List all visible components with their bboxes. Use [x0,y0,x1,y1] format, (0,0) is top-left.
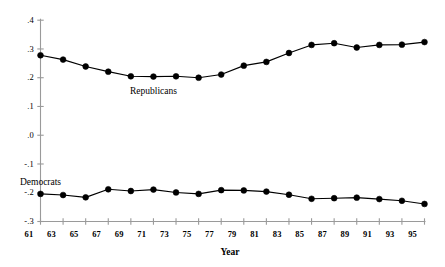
data-point [286,50,292,56]
data-point [354,195,360,201]
x-axis-tick-label: 85 [289,230,311,239]
data-point [60,192,66,198]
data-point [60,57,66,63]
x-axis-tick-label: 71 [131,230,153,239]
data-point [241,63,247,69]
data-point [38,191,44,197]
data-point [399,42,405,48]
data-point [263,59,269,65]
data-point [331,195,337,201]
y-axis-tick-label: .3 [12,45,34,54]
data-point [376,196,382,202]
data-point [422,39,428,45]
data-point [286,192,292,198]
data-point [38,52,44,58]
series-line [41,42,425,78]
x-axis-tick-label: 61 [18,230,40,239]
x-axis-tick-label: 87 [311,230,333,239]
data-point [196,191,202,197]
data-point [331,40,337,46]
series-label-republicans: Republicans [119,86,187,96]
data-point [105,69,111,75]
data-point [309,196,315,202]
chart-plot-area [0,0,445,267]
data-point [83,194,89,200]
x-axis-title: Year [185,247,275,257]
data-point [241,188,247,194]
x-axis-tick-label: 69 [108,230,130,239]
series-line [41,189,425,204]
y-axis-tick-label: -.3 [12,217,34,226]
data-point [151,187,157,193]
x-axis-tick-label: 63 [41,230,63,239]
data-point [128,188,134,194]
data-point [218,187,224,193]
x-axis-tick-label: 67 [86,230,108,239]
y-axis-tick-label: .4 [12,16,34,25]
data-point [128,73,134,79]
data-point [422,201,428,207]
x-axis-tick-label: 65 [63,230,85,239]
data-point [376,42,382,48]
x-axis-tick-label: 83 [266,230,288,239]
data-point [309,42,315,48]
x-axis-tick-label: 75 [176,230,198,239]
x-axis-tick-label: 91 [357,230,379,239]
x-axis-tick-label: 77 [199,230,221,239]
data-point [196,75,202,81]
data-point [218,72,224,78]
y-axis-tick-label: .1 [12,102,34,111]
data-point [173,73,179,79]
x-axis-tick-label: 89 [334,230,356,239]
data-point [105,186,111,192]
data-point [263,189,269,195]
chart-container: .4 .3 .2 .1 .0 -.1 -.2 -.3 61 63 65 67 6… [0,0,445,267]
x-axis-tick-label: 73 [153,230,175,239]
x-axis-tick-label: 93 [379,230,401,239]
series-democrats [38,186,428,206]
y-axis-tick-label: -.1 [12,160,34,169]
x-axis-tick-label: 79 [221,230,243,239]
series-label-democrats: Democrats [7,177,75,187]
x-axis-tick-label: 95 [402,230,424,239]
series-republicans [38,39,428,80]
y-axis-tick-label: .0 [12,131,34,140]
data-point [83,64,89,70]
data-point [354,45,360,51]
y-axis-tick-label: .2 [12,73,34,82]
y-axis-tick-label: -.2 [12,188,34,197]
data-point [173,190,179,196]
data-point [151,74,157,80]
x-axis-tick-label: 81 [244,230,266,239]
data-point [399,198,405,204]
